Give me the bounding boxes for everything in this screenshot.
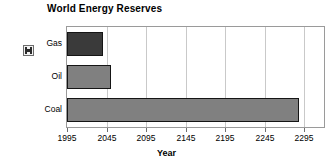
x-tick-mark: [146, 128, 147, 132]
category-label-coal: Coal: [45, 104, 62, 114]
x-tick-label: 2195: [216, 133, 235, 143]
category-label-oil: Oil: [52, 71, 62, 81]
category-label-gas: Gas: [46, 38, 62, 48]
x-tick-label: 2145: [177, 133, 196, 143]
plot-area: [66, 26, 325, 128]
x-tick-label: 1995: [58, 133, 77, 143]
category-axis-labels: Gas Oil Coal: [0, 26, 62, 128]
bar-gas[interactable]: [67, 32, 103, 56]
x-axis-title: Year: [0, 148, 333, 158]
x-tick-mark: [67, 128, 68, 132]
chart-container: World Energy Reserves Gas Oil Coal 19952…: [0, 0, 333, 168]
x-tick-label: 2095: [137, 133, 156, 143]
x-tick-label: 2295: [295, 133, 314, 143]
chart-title: World Energy Reserves: [47, 3, 162, 14]
x-tick-label: 2245: [256, 133, 275, 143]
x-axis-ticks: 1995204520952145219522452295: [0, 128, 333, 146]
x-tick-mark: [304, 128, 305, 132]
bars-layer: [67, 27, 324, 127]
x-tick-label: 2045: [98, 133, 117, 143]
x-tick-mark: [186, 128, 187, 132]
x-tick-mark: [265, 128, 266, 132]
bar-oil[interactable]: [67, 65, 111, 89]
bar-coal[interactable]: [67, 98, 299, 122]
x-tick-mark: [225, 128, 226, 132]
x-tick-mark: [107, 128, 108, 132]
